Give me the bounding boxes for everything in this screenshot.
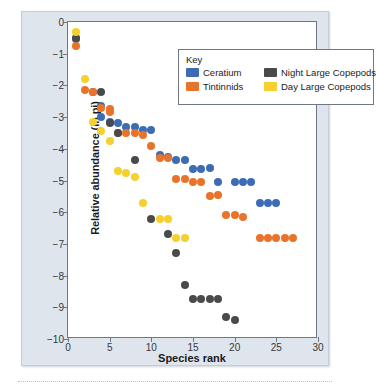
x-tick-mark — [110, 337, 111, 342]
data-point — [172, 175, 180, 183]
data-point — [222, 211, 230, 219]
data-point — [97, 88, 105, 96]
data-point — [147, 215, 155, 223]
plot-area: Relative abundance (ln pi) 0−1−2−3−4−5−6… — [67, 21, 317, 338]
x-tick-mark — [235, 337, 236, 342]
page-rule — [18, 381, 332, 383]
legend-label: Day Large Copepods — [281, 81, 371, 92]
data-point — [181, 234, 189, 242]
legend-label: Ceratium — [203, 67, 242, 78]
x-tick-mark — [151, 337, 152, 342]
data-point — [114, 119, 122, 127]
data-point — [189, 295, 197, 303]
data-point — [131, 156, 139, 164]
x-axis-label: Species rank — [67, 352, 317, 364]
legend-swatch — [264, 82, 277, 91]
data-point — [72, 42, 80, 50]
x-tick-mark — [318, 337, 319, 342]
data-point — [197, 295, 205, 303]
y-tick-mark — [63, 22, 68, 23]
data-point — [106, 137, 114, 145]
y-tick-mark — [63, 276, 68, 277]
y-tick-label: −3 — [38, 112, 64, 123]
data-point — [214, 295, 222, 303]
data-point — [206, 295, 214, 303]
legend-swatch — [264, 68, 277, 77]
y-tick-mark — [63, 149, 68, 150]
y-tick-mark — [63, 244, 68, 245]
data-point — [122, 129, 130, 137]
data-point — [231, 316, 239, 324]
data-point — [97, 113, 105, 121]
data-point — [231, 178, 239, 186]
data-point — [222, 313, 230, 321]
data-point — [181, 175, 189, 183]
data-point — [264, 234, 272, 242]
data-point — [231, 211, 239, 219]
data-point — [114, 129, 122, 137]
data-point — [147, 142, 155, 150]
data-point — [239, 213, 247, 221]
data-point — [131, 173, 139, 181]
data-point — [189, 165, 197, 173]
y-tick-label: −2 — [38, 80, 64, 91]
legend-item: Day Large Copepods — [264, 81, 376, 92]
y-tick-mark — [63, 117, 68, 118]
data-point — [97, 104, 105, 112]
data-point — [139, 131, 147, 139]
y-tick-label: −7 — [38, 238, 64, 249]
legend-item: Ceratium — [186, 67, 264, 78]
data-point — [281, 234, 289, 242]
data-point — [81, 75, 89, 83]
legend-label: Tintinnids — [203, 81, 243, 92]
data-point — [181, 281, 189, 289]
data-point — [156, 154, 164, 162]
y-tick-mark — [63, 307, 68, 308]
data-point — [239, 178, 247, 186]
data-point — [172, 156, 180, 164]
data-point — [164, 230, 172, 238]
y-tick-label: −1 — [38, 48, 64, 59]
y-tick-mark — [63, 85, 68, 86]
data-point — [272, 199, 280, 207]
data-point — [122, 169, 130, 177]
legend-title: Key — [186, 54, 367, 65]
legend-items: CeratiumNight Large CopepodsTintinnidsDa… — [186, 67, 367, 92]
data-point — [172, 249, 180, 257]
data-point — [214, 191, 222, 199]
data-point — [197, 165, 205, 173]
data-point — [206, 164, 214, 172]
data-point — [131, 129, 139, 137]
y-tick-mark — [63, 181, 68, 182]
x-tick-mark — [276, 337, 277, 342]
legend-swatch — [186, 68, 199, 77]
legend-item: Night Large Copepods — [264, 67, 376, 78]
data-point — [181, 156, 189, 164]
data-point — [272, 234, 280, 242]
data-point — [89, 88, 97, 96]
data-point — [72, 28, 80, 36]
data-point — [214, 178, 222, 186]
data-point — [97, 127, 105, 135]
data-point — [256, 234, 264, 242]
data-point — [197, 178, 205, 186]
y-tick-label: −5 — [38, 175, 64, 186]
x-tick-mark — [193, 337, 194, 342]
y-tick-mark — [63, 212, 68, 213]
data-point — [189, 178, 197, 186]
x-tick-mark — [68, 337, 69, 342]
y-tick-label: −9 — [38, 302, 64, 313]
data-point — [81, 86, 89, 94]
data-point — [247, 178, 255, 186]
y-tick-mark — [63, 54, 68, 55]
data-point — [172, 234, 180, 242]
data-point — [114, 167, 122, 175]
data-point — [256, 199, 264, 207]
data-point — [106, 108, 114, 116]
y-tick-label: −4 — [38, 143, 64, 154]
data-point — [147, 126, 155, 134]
data-point — [89, 118, 97, 126]
legend-label: Night Large Copepods — [281, 67, 376, 78]
data-point — [164, 154, 172, 162]
